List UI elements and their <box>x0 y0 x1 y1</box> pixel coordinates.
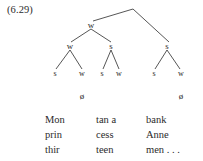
tree-node-level2-2: s <box>165 42 168 51</box>
syllable-cell: Mon <box>45 112 65 127</box>
syllable-cell: Anne <box>146 127 169 142</box>
syllable-row: thirteenmen . . . <box>45 142 203 157</box>
tree-node-level2-0: w <box>67 42 73 51</box>
tree-edge <box>111 50 119 69</box>
tree-node-level3-1: w <box>79 70 85 78</box>
metrical-tree-figure: (6.29) wwssswswswøø Montan abankprincess… <box>0 0 203 161</box>
tree-node-level3-2: s <box>100 70 103 78</box>
syllable-text-block: Montan abankprincessAnnethirteenmen . . … <box>45 112 203 157</box>
tree-node-level3-4: s <box>152 70 155 78</box>
syllable-cell: tan a <box>96 112 116 127</box>
tree-edge <box>133 9 169 42</box>
tree-edge <box>93 9 133 21</box>
tree-node-level3-0: s <box>53 70 56 78</box>
syllable-cell: prin <box>45 127 62 142</box>
tree-node-level2-1: s <box>109 42 112 51</box>
tree-edge <box>70 50 82 69</box>
syllable-row: Montan abank <box>45 112 203 127</box>
tree-node-level1-0: w <box>88 21 95 30</box>
example-number-label: (6.29) <box>7 4 33 15</box>
syllable-cell: bank <box>146 112 166 127</box>
tree-edge <box>155 50 167 69</box>
syllable-row: princessAnne <box>45 127 203 142</box>
null-element-icon-0: ø <box>80 92 85 101</box>
tree-node-level3-3: w <box>116 70 122 78</box>
tree-edge <box>56 50 70 69</box>
tree-edge <box>71 29 91 42</box>
syllable-cell: thir <box>45 142 60 157</box>
tree-edge <box>103 50 111 69</box>
syllable-cell: men . . . <box>146 142 180 157</box>
tree-node-level3-5: w <box>178 70 184 78</box>
tree-edge <box>167 50 180 69</box>
syllable-cell: teen <box>96 142 114 157</box>
tree-edge <box>91 29 111 42</box>
syllable-cell: cess <box>96 127 114 142</box>
null-element-icon-1: ø <box>179 92 184 101</box>
